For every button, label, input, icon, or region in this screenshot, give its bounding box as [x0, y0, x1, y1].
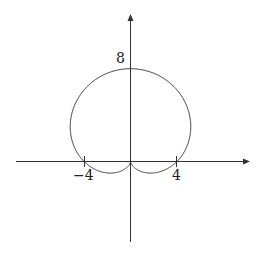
- axes: [16, 18, 248, 242]
- x-label-neg-4: −4: [73, 168, 94, 182]
- y-label-8: 8: [116, 51, 125, 65]
- cardioid-plot: [0, 0, 262, 258]
- x-label-pos-4: 4: [172, 168, 181, 182]
- x-axis-arrow: [243, 159, 250, 165]
- y-axis-arrow: [128, 14, 134, 21]
